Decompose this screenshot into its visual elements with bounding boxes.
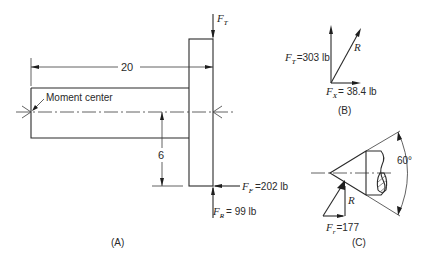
angle-label: 60° [397,155,412,166]
r-label-b: R [353,41,361,53]
moment-center-label: Moment center [46,92,113,103]
arrowhead [337,214,345,218]
arrowhead [355,28,361,37]
arrowhead [211,186,215,195]
ft-label-a: FT [216,12,229,27]
plate-outline [189,39,213,186]
panel-c-label: (C) [352,237,366,248]
fr-label-c: Fr=177 [325,221,359,236]
ft-label-b: FT=303 lb [284,51,330,66]
angle-arc [398,132,408,215]
arrowhead [31,65,39,69]
arrowhead [337,180,345,190]
panel-a-label: (A) [111,237,124,248]
arrowhead [160,112,164,120]
fr-label-a: FR= 99 lb [212,205,257,220]
arrowhead [205,65,213,69]
arrowhead [213,184,222,188]
cone-ext-lower [366,195,400,216]
r-label-c: R [347,194,355,206]
arrowhead [160,178,164,186]
dimension-20-label: 20 [121,61,133,73]
arrowhead [329,25,333,34]
r-vector [331,32,359,83]
arrowhead [352,81,361,85]
cone-ext-upper [366,131,400,151]
diagram-canvas: Moment center 20 6 FT FF=202 lb FR= 99 [0,0,423,264]
panel-b: R FT=303 lb FX= 38.4 lb (B) [284,25,377,116]
dimension-6-label: 6 [158,149,164,161]
panel-c: 60° R Fr=177 (C) [311,131,412,248]
panel-b-label: (B) [338,105,351,116]
resultant-c [323,184,343,216]
arrowhead [211,30,215,39]
fx-label-b: FX= 38.4 lb [325,85,377,100]
panel-a: Moment center 20 6 FT FF=202 lb FR= 99 [16,12,289,248]
ff-label-a: FF=202 lb [241,180,289,195]
